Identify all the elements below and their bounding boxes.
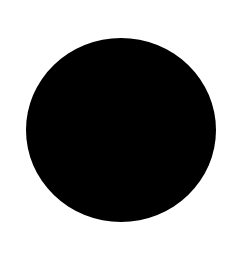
canvas [0, 0, 238, 268]
filled-circle-icon [26, 38, 216, 222]
